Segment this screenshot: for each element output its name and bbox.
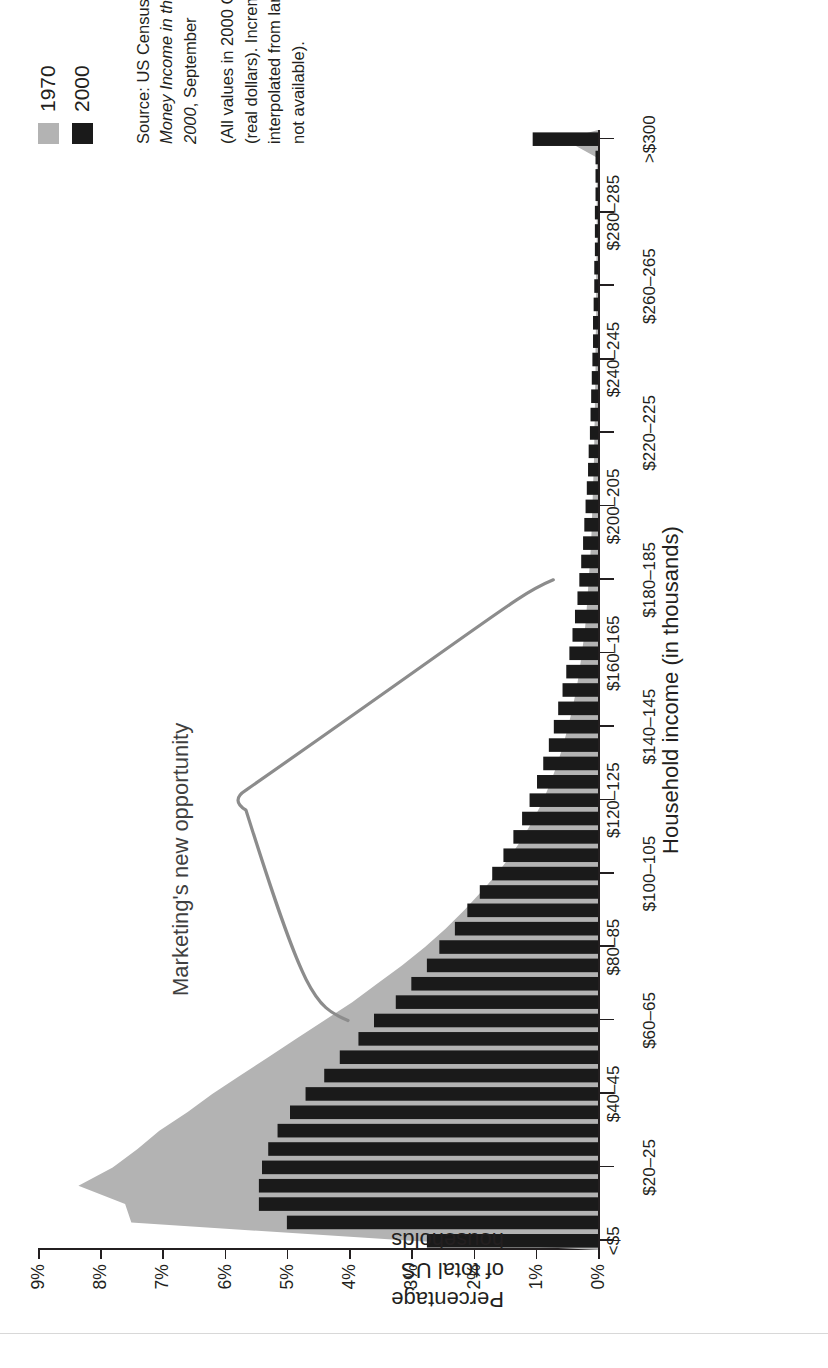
x-tick-label: $280–285 [604, 175, 624, 251]
bar [455, 922, 598, 936]
bar [589, 445, 598, 459]
bar [467, 904, 598, 918]
bar [594, 279, 598, 293]
y-axis-title-line3: households [184, 1226, 504, 1255]
x-tick-label: >$300 [640, 115, 660, 163]
bar [554, 720, 598, 734]
bar [306, 1087, 598, 1101]
y-tick-label: 9% [28, 1264, 49, 1290]
bar [590, 426, 598, 440]
bar [513, 830, 598, 844]
legend-swatch-2000 [72, 123, 93, 144]
x-tick [598, 1166, 614, 1168]
annotation-label: Marketing's new opportunity [168, 723, 194, 996]
source-prefix: Source: US Census Bureau (2001) [134, 0, 152, 144]
bar [593, 334, 598, 348]
bar [581, 555, 598, 569]
x-tick [598, 138, 614, 140]
bar [594, 298, 598, 312]
y-tick-label: 8% [90, 1264, 111, 1290]
bar [533, 132, 598, 146]
bar [522, 812, 598, 826]
legend-item-1970[interactable]: 1970 [36, 65, 60, 144]
bar [480, 885, 598, 899]
x-axis-line [598, 130, 600, 1250]
bar [594, 261, 598, 275]
legend-label-2000: 2000 [70, 65, 94, 112]
bar [374, 1014, 598, 1028]
x-tick-label: $120–125 [604, 762, 624, 838]
bar [566, 665, 598, 679]
bar [572, 628, 598, 642]
bar [268, 1142, 598, 1156]
x-tick-label: $40–45 [604, 1066, 624, 1123]
y-axis-title-line1: Percentage [184, 1285, 504, 1314]
legend-item-2000[interactable]: 2000 [70, 65, 94, 144]
bar [591, 408, 598, 422]
x-axis-title: Household income (in thousands) [658, 130, 684, 1250]
bar [596, 187, 598, 201]
y-tick-label: 7% [152, 1264, 173, 1290]
y-tick [162, 1250, 164, 1259]
bar [579, 573, 598, 587]
bar [593, 316, 598, 330]
x-tick-label: $20–25 [640, 1139, 660, 1196]
bar [530, 793, 598, 807]
bar [592, 371, 598, 385]
y-tick [598, 1250, 600, 1259]
y-tick-label: 1% [525, 1264, 546, 1290]
bar [543, 757, 598, 771]
bar [503, 848, 598, 862]
x-tick-label: $60–65 [640, 992, 660, 1049]
bar [324, 1069, 598, 1083]
x-tick [598, 725, 614, 727]
source-citation: Source: US Census Bureau (2001) Money In… [132, 0, 202, 144]
bar [411, 977, 598, 991]
bar [563, 683, 598, 697]
bar [583, 536, 598, 550]
bar [596, 169, 598, 183]
chart-figure: 0%1%2%3%4%5%6%7%8%9% <$5$20–25$40–45$60–… [0, 0, 828, 1368]
bar [575, 610, 598, 624]
legend: 1970 2000 [36, 65, 104, 144]
bar [290, 1106, 598, 1120]
x-tick-label: $80–85 [604, 919, 624, 976]
bar [595, 243, 598, 257]
bar [596, 151, 598, 165]
x-tick-label: $240–245 [604, 322, 624, 398]
x-tick [598, 578, 614, 580]
x-tick-label: $160–165 [604, 615, 624, 691]
bar [577, 591, 598, 605]
x-tick-label: $100–105 [640, 836, 660, 912]
bar [569, 646, 598, 660]
y-axis-title: Percentage of total US households [184, 1226, 504, 1314]
bar [396, 995, 598, 1009]
x-tick [598, 1019, 614, 1021]
source-methodology-note: (All values in 2000 CPI-U-RS dollars (re… [216, 0, 310, 144]
bar [586, 500, 598, 514]
x-tick-label: $140–145 [640, 689, 660, 765]
bar [278, 1124, 598, 1138]
bar [427, 959, 598, 973]
page-divider-rule [0, 1333, 828, 1334]
y-tick [536, 1250, 538, 1259]
bar [595, 224, 598, 238]
bar [492, 867, 598, 881]
x-tick-label: <$5 [604, 1226, 624, 1255]
bar [587, 481, 598, 495]
bar [340, 1050, 598, 1064]
y-tick [38, 1250, 40, 1259]
y-tick [100, 1250, 102, 1259]
x-tick-label: $220–225 [640, 395, 660, 471]
bar [262, 1161, 598, 1175]
legend-swatch-1970 [38, 123, 59, 144]
bar [558, 702, 598, 716]
bar [259, 1179, 598, 1193]
bar [537, 775, 598, 789]
bar [592, 353, 598, 367]
x-tick [598, 284, 614, 286]
x-tick [598, 431, 614, 433]
bar [588, 463, 598, 477]
x-tick [598, 872, 614, 874]
source-suffix: , September [181, 17, 199, 107]
